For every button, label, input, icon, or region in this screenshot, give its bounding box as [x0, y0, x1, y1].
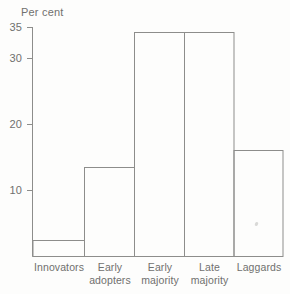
x-tick-label-laggards: Laggards — [234, 261, 284, 274]
x-tick-label-early-majority-line1: Early — [148, 261, 172, 273]
bar-chart: Per cent 35 30 20 10 Innovators Early ad… — [0, 0, 290, 294]
y-tick-label-10: 10 — [0, 184, 22, 196]
y-axis-title: Per cent — [21, 6, 64, 18]
y-tick-label-30: 30 — [0, 52, 22, 64]
bar-early-majority — [135, 33, 185, 257]
bar-late-majority — [185, 33, 235, 257]
x-tick-label-late-majority-line1: Late — [199, 261, 220, 273]
x-tick-label-late-majority: Late majority — [185, 261, 234, 286]
x-tick-label-early-adopters-line2: adopters — [85, 274, 135, 287]
y-axis-ticks — [27, 28, 33, 191]
x-tick-label-laggards-line1: Laggards — [237, 261, 282, 273]
x-tick-label-early-majority: Early majority — [135, 261, 185, 286]
x-tick-label-early-adopters: Early adopters — [85, 261, 135, 286]
x-tick-label-innovators-line1: Innovators — [34, 261, 84, 273]
x-tick-label-early-majority-line2: majority — [135, 274, 185, 287]
bar-early-adopters — [85, 168, 135, 257]
x-tick-label-late-majority-line2: majority — [185, 274, 234, 287]
y-tick-label-35: 35 — [0, 21, 22, 33]
x-tick-label-innovators: Innovators — [31, 261, 87, 274]
bar-laggards — [234, 151, 283, 257]
x-tick-label-early-adopters-line1: Early — [98, 261, 122, 273]
chart-plot-area — [0, 0, 290, 294]
bar-innovators — [33, 241, 85, 257]
y-tick-label-20: 20 — [0, 118, 22, 130]
bar-series — [33, 33, 283, 257]
